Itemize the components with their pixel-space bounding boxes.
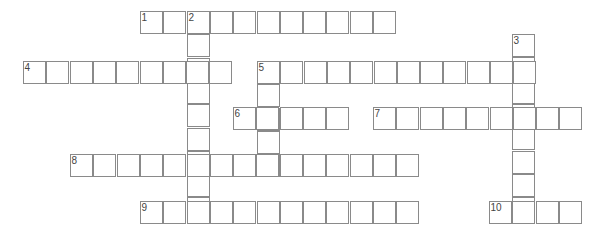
crossword-cell[interactable] <box>396 107 419 130</box>
crossword-cell[interactable] <box>257 84 280 107</box>
crossword-cell[interactable] <box>93 61 116 84</box>
crossword-cell[interactable] <box>374 61 397 84</box>
clue-number: 5 <box>259 62 265 73</box>
crossword-cell[interactable] <box>117 154 140 177</box>
crossword-cell[interactable]: 4 <box>23 61 46 84</box>
crossword-cell[interactable] <box>303 154 326 177</box>
crossword-cell[interactable] <box>396 201 419 224</box>
crossword-cell[interactable] <box>280 11 303 34</box>
crossword-cell[interactable] <box>467 61 490 84</box>
crossword-cell[interactable] <box>536 107 559 130</box>
crossword-cell[interactable] <box>513 107 536 130</box>
crossword-cell[interactable] <box>280 154 303 177</box>
crossword-cell[interactable] <box>350 154 373 177</box>
crossword-cell[interactable] <box>559 201 582 224</box>
crossword-cell[interactable] <box>93 154 116 177</box>
crossword-cell[interactable] <box>163 154 186 177</box>
crossword-cell[interactable] <box>512 81 535 104</box>
crossword-cell[interactable] <box>187 104 210 127</box>
crossword-cell[interactable] <box>163 61 186 84</box>
crossword-cell[interactable] <box>257 131 280 154</box>
crossword-cell[interactable] <box>327 61 350 84</box>
crossword-cell[interactable] <box>140 61 163 84</box>
crossword-cell[interactable] <box>46 61 69 84</box>
crossword-cell[interactable] <box>280 201 303 224</box>
crossword-cell[interactable]: 10 <box>489 201 512 224</box>
clue-number: 1 <box>142 12 148 23</box>
crossword-cell[interactable] <box>490 61 513 84</box>
crossword-cell[interactable] <box>70 61 93 84</box>
crossword-cell[interactable] <box>373 11 396 34</box>
crossword-cell[interactable] <box>209 61 232 84</box>
clue-number: 4 <box>25 62 31 73</box>
crossword-cell[interactable] <box>490 107 513 130</box>
crossword-cell[interactable] <box>303 201 326 224</box>
clue-number: 3 <box>514 35 520 46</box>
clue-number: 9 <box>142 202 148 213</box>
crossword-cell[interactable] <box>187 128 210 151</box>
crossword-cell[interactable] <box>350 201 373 224</box>
crossword-cell[interactable] <box>140 154 163 177</box>
crossword-cell[interactable]: 5 <box>257 61 280 84</box>
crossword-cell[interactable] <box>420 61 443 84</box>
crossword-cell[interactable] <box>256 107 279 130</box>
crossword-cell[interactable]: 8 <box>70 154 93 177</box>
crossword-cell[interactable] <box>326 107 349 130</box>
crossword-cell[interactable] <box>303 11 326 34</box>
crossword-cell[interactable] <box>559 107 582 130</box>
crossword-cell[interactable] <box>233 154 256 177</box>
clue-number: 6 <box>235 108 241 119</box>
crossword-cell[interactable] <box>326 154 349 177</box>
crossword-cell[interactable] <box>210 154 233 177</box>
crossword-cell[interactable] <box>187 201 210 224</box>
crossword-cell[interactable] <box>280 107 303 130</box>
crossword-cell[interactable] <box>304 61 327 84</box>
crossword-cell[interactable] <box>163 11 186 34</box>
crossword-cell[interactable] <box>373 154 396 177</box>
crossword-cell[interactable] <box>187 34 210 57</box>
crossword-cell[interactable]: 3 <box>512 34 535 57</box>
clue-number: 8 <box>72 155 78 166</box>
crossword-cell[interactable] <box>512 174 535 197</box>
crossword-cell[interactable] <box>420 107 443 130</box>
crossword-cell[interactable] <box>443 61 466 84</box>
crossword-cell[interactable]: 9 <box>140 201 163 224</box>
crossword-cell[interactable] <box>163 201 186 224</box>
crossword-cell[interactable] <box>350 11 373 34</box>
crossword-cell[interactable] <box>396 154 419 177</box>
crossword-cell[interactable] <box>116 61 139 84</box>
crossword-cell[interactable]: 1 <box>140 11 163 34</box>
clue-number: 2 <box>189 12 195 23</box>
crossword-cell[interactable] <box>210 201 233 224</box>
crossword-cell[interactable] <box>280 61 303 84</box>
crossword-cell[interactable] <box>257 11 280 34</box>
crossword-cell[interactable] <box>210 11 233 34</box>
crossword-cell[interactable]: 7 <box>373 107 396 130</box>
crossword-cell[interactable] <box>257 201 280 224</box>
crossword-cell[interactable] <box>513 61 536 84</box>
crossword-cell[interactable] <box>326 11 349 34</box>
crossword-cell[interactable] <box>350 61 373 84</box>
crossword-cell[interactable]: 2 <box>187 11 210 34</box>
crossword-cell[interactable] <box>512 151 535 174</box>
crossword-cell[interactable] <box>443 107 466 130</box>
crossword-cell[interactable] <box>187 174 210 197</box>
crossword-cell[interactable] <box>186 61 209 84</box>
crossword-cell[interactable] <box>536 201 559 224</box>
crossword-cell[interactable] <box>326 201 349 224</box>
crossword-cell[interactable] <box>233 201 256 224</box>
crossword-cell[interactable] <box>512 127 535 150</box>
crossword-cell[interactable] <box>187 81 210 104</box>
crossword-cell[interactable] <box>233 11 256 34</box>
crossword-cell[interactable] <box>256 154 279 177</box>
crossword-cell[interactable] <box>187 154 210 177</box>
crossword-cell[interactable] <box>373 201 396 224</box>
crossword-grid: 12345678910 <box>0 0 605 236</box>
clue-number: 7 <box>375 108 381 119</box>
crossword-cell[interactable]: 6 <box>233 107 256 130</box>
crossword-cell[interactable] <box>303 107 326 130</box>
crossword-cell[interactable] <box>512 201 535 224</box>
crossword-cell[interactable] <box>466 107 489 130</box>
clue-number: 10 <box>491 202 502 213</box>
crossword-cell[interactable] <box>397 61 420 84</box>
